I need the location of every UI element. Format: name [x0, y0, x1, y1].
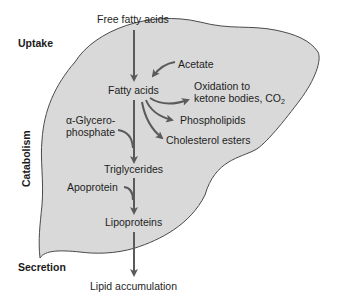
- cholesterol-esters-label: Cholesterol esters: [166, 134, 251, 146]
- liver-fatty-acid-diagram: Uptake Catabolism Secretion Free fatty a…: [0, 0, 338, 304]
- acetate-label: Acetate: [178, 58, 214, 70]
- glycerophosphate-label: α-Glycero- phosphate: [66, 114, 115, 138]
- apoprotein-label: Apoprotein: [67, 181, 118, 193]
- lipid-accumulation-label: Lipid accumulation: [90, 280, 177, 292]
- oxidation-label: Oxidation to ketone bodies, CO2: [194, 80, 285, 108]
- free-fatty-acids-label: Free fatty acids: [97, 13, 169, 25]
- triglycerides-label: Triglycerides: [104, 163, 163, 175]
- secretion-label: Secretion: [18, 261, 66, 273]
- fatty-acids-label: Fatty acids: [108, 84, 159, 96]
- oxidation-line2: ketone bodies, CO2: [194, 92, 285, 108]
- uptake-label: Uptake: [18, 37, 53, 49]
- oxidation-line1: Oxidation to: [194, 80, 285, 92]
- catabolism-label: Catabolism: [20, 130, 32, 187]
- lipoproteins-label: Lipoproteins: [105, 216, 162, 228]
- phospholipids-label: Phospholipids: [180, 114, 245, 126]
